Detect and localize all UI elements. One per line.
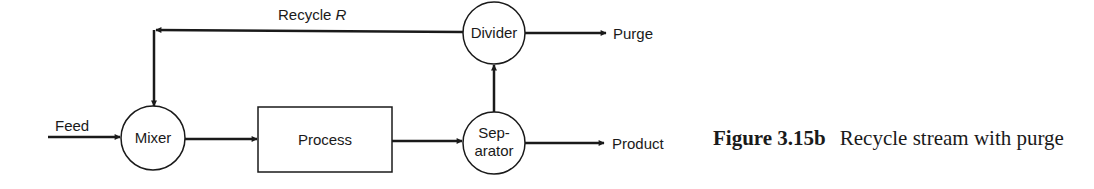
divider-label: Divider: [471, 24, 518, 41]
flow-diagram: Feed Mixer Process Sep- arator Product D…: [0, 0, 1094, 189]
mixer-label: Mixer: [135, 129, 172, 146]
product-stream: Product: [525, 135, 665, 152]
purge-stream: Purge: [525, 25, 653, 42]
recycle-arrow-icon: [156, 30, 463, 32]
feed-label: Feed: [55, 117, 89, 134]
purge-label: Purge: [613, 25, 653, 42]
divider-node: Divider: [463, 2, 525, 64]
recycle-label: Recycle R: [278, 6, 347, 23]
product-label: Product: [612, 135, 665, 152]
separator-label-line2: arator: [474, 142, 513, 159]
figure-caption: Figure 3.15bRecycle stream with purge: [713, 126, 1073, 150]
process-node: Process: [258, 107, 392, 172]
caption-text: Recycle stream with purge: [840, 126, 1064, 150]
recycle-stream: Recycle R: [154, 6, 463, 106]
recycle-symbol: R: [336, 6, 347, 23]
separator-label-line1: Sep-: [478, 124, 510, 141]
mixer-node: Mixer: [121, 106, 185, 170]
process-label: Process: [298, 131, 352, 148]
feed-stream: Feed: [48, 117, 120, 137]
separator-node: Sep- arator: [463, 112, 525, 174]
figure-number: Figure 3.15b: [713, 126, 826, 150]
